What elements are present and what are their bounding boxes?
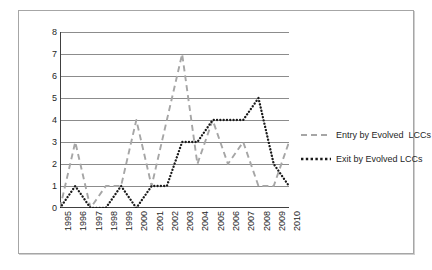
plot-area <box>60 32 289 208</box>
y-tick-label: 1 <box>52 182 57 191</box>
legend-swatch-dashed-line-icon <box>301 130 331 140</box>
y-tick-label: 0 <box>52 204 57 213</box>
legend-label-entry: Entry by Evolved LCCs <box>336 131 431 140</box>
series-line-entry <box>60 54 289 208</box>
legend-swatch-dotted-line-icon <box>301 154 331 164</box>
y-tick-label: 5 <box>52 94 57 103</box>
x-tick-label: 1995 <box>64 211 73 231</box>
x-tick-label: 2001 <box>156 211 165 231</box>
legend-item-exit: Exit by Evolved LCCs <box>301 147 425 171</box>
y-tick-label: 4 <box>52 116 57 125</box>
series-lines <box>60 54 289 208</box>
chart-figure: 012345678 199519961997199819992000200120… <box>0 0 432 270</box>
x-tick-label: 2000 <box>140 211 149 231</box>
x-tick-label: 2009 <box>278 211 287 231</box>
x-tick-label: 1999 <box>125 211 134 231</box>
series-line-exit <box>60 98 289 208</box>
plot-canvas <box>60 32 289 208</box>
x-tick-label: 2007 <box>247 211 256 231</box>
y-tick-label: 3 <box>52 138 57 147</box>
chart-frame: 012345678 199519961997199819992000200120… <box>18 10 414 254</box>
y-tick-label: 8 <box>52 28 57 37</box>
y-axis-tick-labels: 012345678 <box>45 32 57 208</box>
x-tick-label: 1998 <box>110 211 119 231</box>
y-tick-label: 7 <box>52 50 57 59</box>
x-tick-label: 2008 <box>263 211 272 231</box>
x-tick-label: 2006 <box>232 211 241 231</box>
legend-item-entry: Entry by Evolved LCCs <box>301 123 425 147</box>
x-tick-label: 2010 <box>293 211 302 231</box>
x-axis-tick-labels: 1995199619971998199920002001200220032004… <box>60 211 289 257</box>
gridlines <box>60 32 289 208</box>
chart-legend: Entry by Evolved LCCs Exit by Evolved LC… <box>301 123 425 171</box>
legend-label-exit: Exit by Evolved LCCs <box>336 155 423 164</box>
y-tick-label: 2 <box>52 160 57 169</box>
x-tick-label: 1996 <box>79 211 88 231</box>
x-tick-label: 1997 <box>95 211 104 231</box>
x-tick-label: 2003 <box>186 211 195 231</box>
y-tick-label: 6 <box>52 72 57 81</box>
x-tick-label: 2005 <box>217 211 226 231</box>
x-tick-label: 2002 <box>171 211 180 231</box>
x-tick-label: 2004 <box>201 211 210 231</box>
